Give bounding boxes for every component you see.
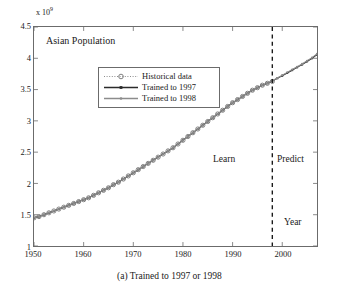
data-point-marker (137, 169, 139, 171)
legend-marker (120, 86, 123, 89)
axis-tick-marks (34, 27, 317, 246)
data-point-marker (97, 192, 99, 194)
data-point-marker (107, 187, 109, 189)
chart-canvas (34, 27, 317, 246)
data-point-marker (92, 194, 94, 196)
data-point-marker (311, 57, 313, 59)
legend-sample-dotted-circle-icon (102, 71, 140, 82)
x-tick-label: 1990 (225, 250, 242, 259)
data-point-marker (38, 216, 40, 218)
data-point-marker (127, 175, 129, 177)
data-point-marker (88, 197, 90, 199)
legend-label: Trained to 1998 (140, 94, 196, 103)
data-point-marker (48, 212, 50, 214)
x-tick-label: 1970 (125, 250, 142, 259)
y-axis-exponent-power: 9 (50, 6, 53, 12)
legend-label: Trained to 1997 (140, 83, 196, 92)
data-point-marker (212, 117, 214, 119)
data-point-marker (132, 172, 134, 174)
x-tick-label: 1950 (25, 250, 42, 259)
chart-legend: Historical dataTrained to 1997Trained to… (98, 67, 220, 108)
data-point-marker (276, 77, 278, 79)
predict-region-label: Predict (277, 155, 304, 165)
data-point-marker (78, 200, 80, 202)
data-point-marker (202, 124, 204, 126)
data-point-marker (291, 68, 293, 70)
data-point-marker (162, 153, 164, 155)
y-tick-label: 4.5 (1, 22, 31, 31)
x-tick-label: 2000 (275, 250, 292, 259)
y-tick-label: 2.5 (1, 148, 31, 157)
data-point-marker (227, 105, 229, 107)
x-tick-label: 1980 (175, 250, 192, 259)
data-point-marker (102, 189, 104, 191)
data-point-marker (232, 102, 234, 104)
data-point-marker (63, 206, 65, 208)
data-point-marker (167, 150, 169, 152)
legend-sample-solid-dot-icon (102, 93, 140, 104)
y-tick-label: 4 (1, 54, 31, 63)
data-point-marker (266, 82, 268, 84)
data-point-marker (241, 95, 243, 97)
legend-item: Trained to 1998 (102, 93, 215, 104)
data-point-marker (83, 199, 85, 201)
data-point-marker (251, 89, 253, 91)
data-point-marker (222, 109, 224, 111)
data-point-marker (296, 66, 298, 68)
data-point-marker (142, 165, 144, 167)
data-point-marker (43, 214, 45, 216)
y-tick-label: 3.5 (1, 85, 31, 94)
data-point-marker (301, 63, 303, 65)
y-tick-label: 2 (1, 180, 31, 189)
legend-item: Historical data (102, 71, 215, 82)
plot-title-annotation: Asian Population (46, 36, 115, 46)
plot-area (33, 26, 318, 247)
data-point-marker (122, 178, 124, 180)
data-point-marker (68, 204, 70, 206)
data-point-marker (172, 147, 174, 149)
figure-container: x 109 11.522.533.544.5 19501960197019801… (0, 0, 339, 297)
x-tick-label: 1960 (75, 250, 92, 259)
legend-item: Trained to 1997 (102, 82, 215, 93)
data-point-marker (187, 135, 189, 137)
data-point-marker (157, 156, 159, 158)
y-axis-exponent-prefix: x 10 (36, 8, 50, 17)
y-tick-label: 1.5 (1, 211, 31, 220)
data-point-marker (197, 128, 199, 130)
data-point-marker (177, 143, 179, 145)
x-axis-tick-labels: 195019601970198019902000 (0, 250, 339, 264)
data-point-marker (192, 132, 194, 134)
legend-sample-solid-square-icon (102, 82, 140, 93)
data-point-marker (207, 120, 209, 122)
figure-caption: (a) Trained to 1997 or 1998 (0, 272, 339, 282)
data-point-marker (306, 60, 308, 62)
data-point-marker (117, 181, 119, 183)
data-point-marker (217, 113, 219, 115)
data-point-marker (73, 202, 75, 204)
data-point-marker (152, 159, 154, 161)
x-axis-title: Year (284, 218, 302, 228)
data-point-marker (261, 84, 263, 86)
data-point-marker (58, 208, 60, 210)
data-point-marker (112, 184, 114, 186)
data-point-marker (281, 74, 283, 76)
legend-marker (120, 97, 123, 100)
data-point-marker (147, 162, 149, 164)
data-point-marker (236, 98, 238, 100)
data-point-marker (286, 71, 288, 73)
data-point-marker (246, 92, 248, 94)
y-axis-exponent-label: x 109 (36, 9, 53, 17)
data-point-marker (256, 87, 258, 89)
data-point-marker (53, 210, 55, 212)
y-tick-label: 3 (1, 117, 31, 126)
legend-label: Historical data (140, 72, 192, 81)
learn-region-label: Learn (213, 155, 235, 165)
data-point-marker (182, 139, 184, 141)
